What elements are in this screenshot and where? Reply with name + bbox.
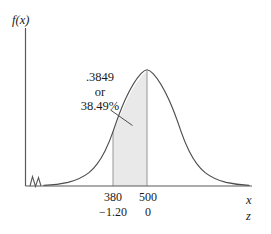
- annotation-percent: 38.49%: [66, 99, 134, 114]
- x-tick-label-380: 380: [98, 191, 128, 203]
- x-tick-label-500: 500: [133, 191, 163, 203]
- z-tick-label-zero: 0: [133, 206, 163, 218]
- annotation-connector: or: [66, 85, 134, 100]
- y-axis-title: f(x): [12, 14, 29, 27]
- z-tick-label-minus-120: −1.20: [93, 206, 133, 218]
- annotation-block: .3849 or 38.49%: [66, 70, 134, 114]
- z-axis-name: z: [246, 210, 251, 223]
- x-axis-name: x: [246, 194, 252, 207]
- annotation-probability: .3849: [66, 70, 134, 85]
